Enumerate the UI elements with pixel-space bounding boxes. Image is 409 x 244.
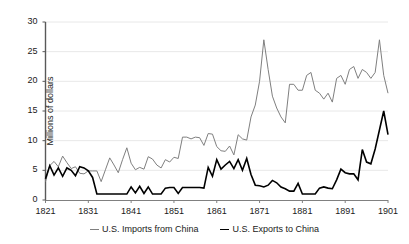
legend-item-exports[interactable]: U.S. Exports to China (220, 224, 319, 234)
chart-legend: U.S. Imports from ChinaU.S. Exports to C… (0, 224, 409, 234)
y-tick-label: 5 (12, 165, 38, 174)
y-tick-label: 15 (12, 106, 38, 115)
gridlines (46, 22, 389, 170)
legend-item-imports[interactable]: U.S. Imports from China (90, 224, 199, 234)
legend-line-icon (90, 229, 99, 230)
x-tick-label: 1881 (282, 207, 322, 216)
legend-label: U.S. Imports from China (102, 224, 199, 234)
y-tick-label: 25 (12, 47, 38, 56)
x-tick-label: 1851 (154, 207, 194, 216)
legend-label: U.S. Exports to China (232, 224, 319, 234)
y-tick-label: 0 (12, 195, 38, 204)
series-line-exports (46, 111, 389, 194)
legend-line-icon (220, 229, 229, 230)
x-tick-label: 1871 (240, 207, 280, 216)
x-tick-label: 1821 (26, 207, 66, 216)
x-tick-label: 1861 (197, 207, 237, 216)
y-axis-label: Millions of dollars (45, 21, 63, 201)
y-tick-label: 30 (12, 17, 38, 26)
x-tick-label: 1901 (368, 207, 408, 216)
x-tick-label: 1841 (111, 207, 151, 216)
y-tick-label: 10 (12, 136, 38, 145)
x-tick-label: 1831 (68, 207, 108, 216)
y-tick-label: 20 (12, 76, 38, 85)
chart-container: Millions of dollars 051015202530 1821183… (0, 0, 409, 244)
x-tick-label: 1891 (325, 207, 365, 216)
data-series-layer (46, 40, 389, 194)
